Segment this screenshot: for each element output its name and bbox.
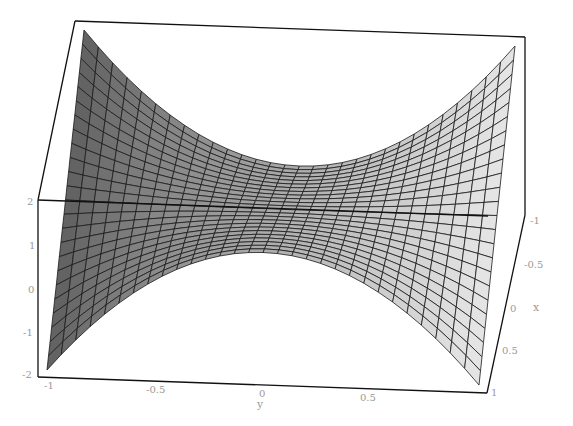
y-axis-title: y xyxy=(257,399,263,410)
z-tick-label: -2 xyxy=(22,370,32,380)
saddle-surface-plot xyxy=(0,0,573,426)
x-axis-title: x xyxy=(533,302,539,313)
z-tick-label: 1 xyxy=(29,241,35,251)
z-tick-label: 2 xyxy=(27,197,33,207)
y-tick-label: -1 xyxy=(44,381,54,391)
x-tick-label: 0 xyxy=(510,304,516,314)
saddle-surface-mesh xyxy=(47,30,515,385)
x-tick-label: -1 xyxy=(530,216,540,226)
x-tick-label: -0.5 xyxy=(524,260,543,270)
z-tick-label: -1 xyxy=(23,328,33,338)
y-tick-label: 0.5 xyxy=(360,393,376,403)
z-tick-label: 0 xyxy=(28,285,34,295)
y-tick-label: -0.5 xyxy=(146,385,165,395)
y-tick-label: 1 xyxy=(491,388,497,398)
x-tick-label: 0.5 xyxy=(502,346,518,356)
